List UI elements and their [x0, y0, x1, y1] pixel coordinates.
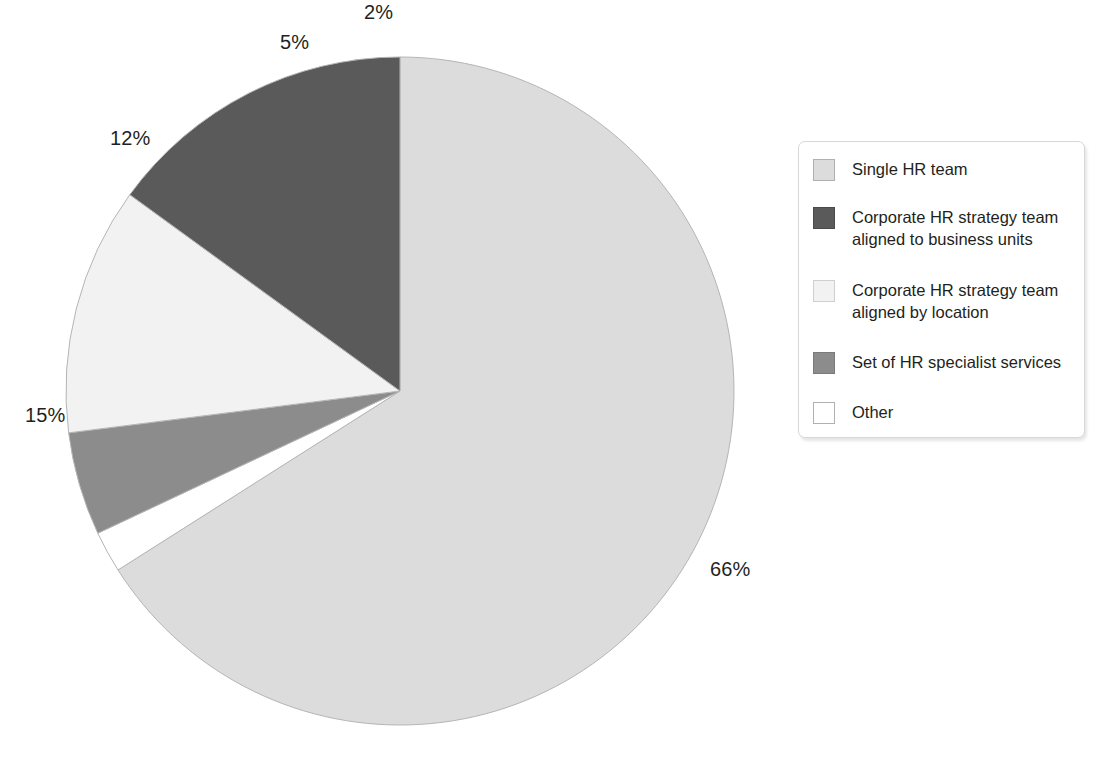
- legend-item-corporate-hr-business-units[interactable]: Corporate HR strategy team aligned to bu…: [813, 206, 1058, 250]
- legend-swatch-corporate-hr-location: [813, 280, 835, 302]
- legend-label-corporate-hr-location: Corporate HR strategy team aligned by lo…: [852, 279, 1058, 323]
- legend-item-other[interactable]: Other: [813, 401, 893, 424]
- pie-chart-figure: 66%15%12%5%2% Single HR teamCorporate HR…: [0, 0, 1111, 757]
- legend-item-single-hr-team[interactable]: Single HR team: [813, 158, 968, 181]
- legend-swatch-other: [813, 402, 835, 424]
- legend-label-single-hr-team: Single HR team: [852, 158, 968, 180]
- pie-label-other: 2%: [364, 1, 393, 24]
- legend-swatch-corporate-hr-business-units: [813, 207, 835, 229]
- legend-label-other: Other: [852, 401, 893, 423]
- pie-label-single-hr-team: 66%: [710, 558, 750, 581]
- legend-label-corporate-hr-business-units: Corporate HR strategy team aligned to bu…: [852, 206, 1058, 250]
- legend-label-set-hr-specialist-services: Set of HR specialist services: [852, 351, 1061, 373]
- legend-item-set-hr-specialist-services[interactable]: Set of HR specialist services: [813, 351, 1061, 374]
- legend-swatch-set-hr-specialist-services: [813, 352, 835, 374]
- pie-label-corporate-hr-business: 15%: [25, 404, 65, 427]
- chart-legend: Single HR teamCorporate HR strategy team…: [798, 141, 1085, 438]
- pie-label-set-hr-specialist: 5%: [280, 31, 309, 54]
- pie-label-corporate-hr-location: 12%: [110, 127, 150, 150]
- legend-item-corporate-hr-location[interactable]: Corporate HR strategy team aligned by lo…: [813, 279, 1058, 323]
- legend-swatch-single-hr-team: [813, 159, 835, 181]
